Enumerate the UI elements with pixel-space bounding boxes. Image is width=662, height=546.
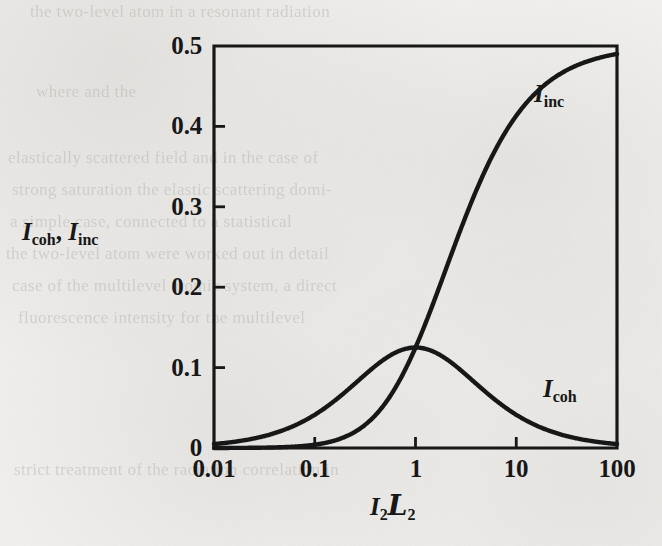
x-tick-label-1: 1 xyxy=(371,455,461,483)
x-tick-label-0.01: 0.01 xyxy=(169,455,259,483)
y-axis-title-subscript-1: coh xyxy=(32,231,56,248)
y-tick-label-0.4: 0.4 xyxy=(140,112,202,140)
tick-marks xyxy=(214,126,516,448)
x-axis-title: I2L2 xyxy=(370,489,415,524)
y-tick-label-0.3: 0.3 xyxy=(140,193,202,221)
curve-label-iinc-symbol: I xyxy=(534,80,544,107)
y-axis-title: Icoh, Iinc xyxy=(22,218,98,249)
curve-label-icoh: Icoh xyxy=(543,375,577,406)
x-axis-title-symbol-I: I xyxy=(370,493,380,520)
y-axis-title-separator: , xyxy=(56,218,69,245)
x-axis-title-subscript-1: 2 xyxy=(380,506,388,523)
y-tick-label-0.5: 0.5 xyxy=(140,32,202,60)
saturation-intensity-chart: 0.5 0.4 0.3 0.2 0.1 0 0.01 0.1 1 10 100 … xyxy=(0,0,662,546)
x-axis-title-script-L: L xyxy=(388,489,408,522)
y-axis-title-symbol-2: I xyxy=(68,218,78,245)
curve-label-icoh-symbol: I xyxy=(543,375,553,402)
y-axis-title-subscript-2: inc xyxy=(78,231,98,248)
curve-label-iinc-subscript: inc xyxy=(544,93,564,110)
y-tick-label-0.1: 0.1 xyxy=(140,354,202,382)
x-tick-label-0.1: 0.1 xyxy=(270,455,360,483)
curve-label-icoh-subscript: coh xyxy=(553,388,577,405)
y-axis-title-symbol-1: I xyxy=(22,218,32,245)
x-tick-label-10: 10 xyxy=(471,455,561,483)
x-tick-label-100: 100 xyxy=(572,455,662,483)
y-tick-label-0.2: 0.2 xyxy=(140,273,202,301)
x-axis-title-subscript-2: 2 xyxy=(407,506,415,523)
curve-label-iinc: Iinc xyxy=(534,80,564,111)
